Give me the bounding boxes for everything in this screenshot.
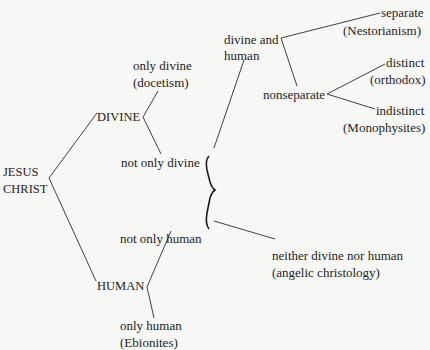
- edge-dh-nonseparate: [281, 38, 297, 86]
- indistinct-label: indistinct: [376, 102, 424, 119]
- divine-node: DIVINE: [97, 109, 140, 126]
- edge-brace-dh: [214, 60, 244, 148]
- root-label-christ: CHRIST: [3, 181, 47, 198]
- edge-nonsep-indistinct: [327, 94, 375, 109]
- ebionites-label: (Ebionites): [120, 334, 178, 350]
- curly-brace: [206, 156, 215, 229]
- nonseparate-label: nonseparate: [263, 86, 325, 103]
- divine-and-human-label-line1: divine and: [224, 31, 279, 48]
- docetism-label: (docetism): [133, 74, 189, 91]
- orthodox-label: (orthodox): [370, 71, 426, 88]
- nestorianism-label: (Nestorianism): [343, 22, 421, 39]
- distinct-label: distinct: [386, 54, 424, 71]
- human-node: HUMAN: [97, 278, 144, 295]
- monophysites-label: (Monophysites): [343, 119, 425, 136]
- edge-root-human: [49, 178, 96, 281]
- edge-brace-neither: [214, 221, 275, 239]
- edge-divine-only: [143, 91, 158, 117]
- separate-label: separate: [381, 4, 424, 21]
- only-human-label: only human: [120, 317, 182, 334]
- diagram-connectors: [0, 0, 430, 350]
- neither-label: neither divine nor human: [272, 247, 403, 264]
- edge-divine-notonly: [143, 117, 161, 154]
- not-only-divine-label: not only divine: [121, 154, 200, 171]
- not-only-human-label: not only human: [120, 230, 202, 247]
- edge-human-only: [147, 287, 154, 318]
- only-divine-label: only divine: [133, 57, 192, 74]
- divine-and-human-label-line2: human: [224, 47, 259, 64]
- angelic-christology-label: (angelic christology): [272, 264, 380, 281]
- root-label-jesus: JESUS: [3, 164, 38, 181]
- edge-root-divine: [49, 113, 97, 178]
